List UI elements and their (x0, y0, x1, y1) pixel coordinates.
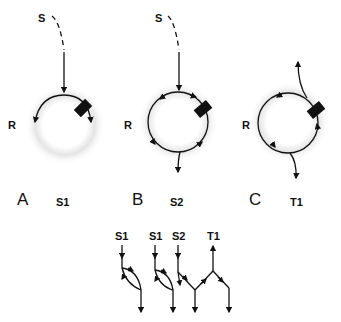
schematic-label: S2 (172, 230, 185, 242)
product-label: S2 (170, 196, 183, 208)
panel-a: S R A S1 (8, 12, 105, 209)
schematic-label: S1 (149, 230, 162, 242)
ring-label: R (124, 119, 132, 131)
ring-halo (25, 85, 105, 165)
panel-letter: A (17, 190, 29, 209)
panel-b: S R B S2 (124, 12, 218, 209)
panel-c: R C T1 (242, 62, 329, 209)
ring-halo (138, 82, 218, 162)
ring-label: R (8, 119, 16, 131)
product-label: S1 (56, 196, 69, 208)
dashed-source-path (52, 16, 64, 50)
panel-letter: B (132, 190, 143, 209)
product-label: T1 (290, 196, 303, 208)
source-label: S (155, 12, 162, 24)
dashed-source-path (168, 16, 179, 50)
schematic-label: S1 (115, 230, 128, 242)
schematic: S1 S1 S2 T1 (115, 230, 229, 312)
diagram-canvas: S R A S1 S R B S2 R C T1 (0, 0, 341, 322)
panel-letter: C (249, 190, 261, 209)
source-label: S (38, 12, 45, 24)
ring-label: R (242, 119, 250, 131)
schematic-label: T1 (207, 230, 220, 242)
ring-halo (249, 82, 329, 162)
